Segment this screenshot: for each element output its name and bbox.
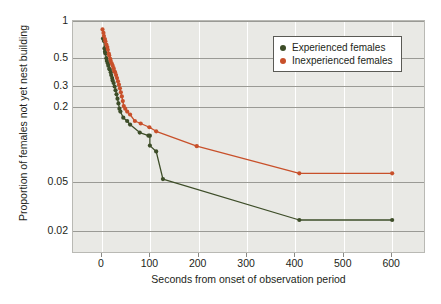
data-point [112,81,116,85]
y-tick-label: 0.5 [53,52,68,63]
x-tick-label: 200 [178,258,218,269]
data-point [390,171,394,175]
x-tick-label: 500 [323,258,363,269]
data-point [148,144,152,148]
x-tick-label: 0 [81,258,121,269]
data-point [117,83,121,87]
chart-legend: Experienced femalesInexperienced females [273,36,402,72]
x-tick-mark [101,253,102,257]
data-point [297,171,301,175]
data-point [121,116,125,120]
data-point [106,48,110,52]
chart-figure: 10.50.30.20.050.02 0100200300400500600 S… [0,0,441,304]
legend-label: Experienced females [292,43,385,53]
data-point [125,119,129,123]
x-tick-mark [343,253,344,257]
data-point [115,97,119,101]
x-axis-title: Seconds from onset of observation period [72,273,425,285]
data-point [118,109,122,113]
data-point [114,92,118,96]
data-point [112,84,116,88]
y-tick-label: 0.02 [48,225,68,236]
data-point [118,86,122,90]
x-tick-mark [246,253,247,257]
data-point [147,125,151,129]
data-point [100,27,104,31]
legend-marker-icon [280,58,286,64]
x-tick-label: 600 [371,258,411,269]
data-point [133,119,137,123]
x-tick-mark [149,253,150,257]
y-tick-label: 1 [62,15,68,26]
data-point [120,94,124,98]
data-point [138,130,142,134]
x-tick-mark [198,253,199,257]
data-point [128,112,132,116]
x-axis-tick-labels: 0100200300400500600 [0,258,441,272]
data-point [297,218,301,222]
y-tick-label: 0.3 [53,80,68,91]
data-point [139,121,143,125]
y-tick-label: 0.05 [48,176,68,187]
data-point [119,90,123,94]
data-point [121,99,125,103]
legend-item: Experienced females [280,41,393,54]
x-tick-mark [391,253,392,257]
data-point [113,88,117,92]
data-point [154,129,158,133]
data-point [148,134,152,138]
x-tick-mark [294,253,295,257]
y-tick-label: 0.2 [53,101,68,112]
data-point [195,144,199,148]
data-point [154,149,158,153]
x-tick-label: 100 [129,258,169,269]
legend-item: Inexperienced females [280,54,393,67]
data-point [161,177,165,181]
y-axis-tick-labels: 10.50.30.20.050.02 [0,0,68,273]
data-point [390,218,394,222]
x-tick-label: 300 [226,258,266,269]
legend-label: Inexperienced females [292,56,393,66]
data-point [116,101,120,105]
x-tick-label: 400 [274,258,314,269]
data-point [128,123,132,127]
legend-marker-icon [280,45,286,51]
y-axis-title: Proportion of females not yet nest build… [17,8,29,238]
